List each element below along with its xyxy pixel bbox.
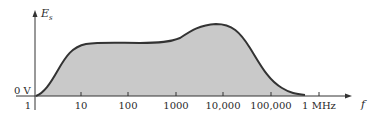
x-tick-label-1000: 1000 — [163, 100, 188, 111]
y-axis-arrow-icon — [33, 10, 38, 17]
x-axis-arrow-icon — [345, 94, 352, 99]
x-axis-label: f — [361, 98, 365, 111]
zero-volt-label: 0 V — [14, 85, 31, 96]
x-tick-label-1: 1 — [25, 100, 31, 111]
x-tick-label-10: 10 — [75, 100, 88, 111]
x-tick-label-10000: 10,000 — [206, 100, 241, 111]
x-tick-label-1mhz: 1 MHz — [302, 100, 336, 111]
spectrum-area — [36, 24, 305, 96]
x-tick-label-100000: 100,000 — [250, 100, 291, 111]
y-axis-label: Es — [41, 7, 53, 22]
x-tick-label-100: 100 — [118, 100, 137, 111]
